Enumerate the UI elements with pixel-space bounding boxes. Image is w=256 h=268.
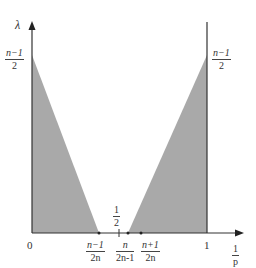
denominator: 2n: [145, 253, 155, 263]
left-shaded-triangle: [32, 55, 99, 233]
x-axis-arrow-icon: [235, 230, 244, 237]
denominator: p: [233, 257, 238, 267]
y-axis-arrow-icon: [29, 21, 36, 30]
x-tick-half-label: 1 2: [113, 205, 120, 228]
denominator: 2: [12, 61, 17, 71]
denominator: 2: [114, 218, 119, 228]
x-tick-a-label: n−1 2n: [86, 240, 105, 263]
x-one-label: 1: [204, 240, 210, 251]
numerator: n−1: [212, 48, 231, 58]
y-axis-label: λ: [15, 19, 20, 31]
denominator: 2: [219, 61, 224, 71]
numerator: 1: [113, 205, 120, 215]
y-tick-left-apex: n−1 2: [5, 48, 24, 71]
numerator: n−1: [5, 48, 24, 58]
denominator: 2n-1: [116, 253, 134, 263]
numerator: n−1: [86, 240, 105, 250]
numerator: 1: [232, 244, 239, 254]
numerator: n+1: [141, 240, 160, 250]
right-shaded-triangle: [128, 55, 207, 233]
denominator: 2n: [90, 253, 100, 263]
numerator: n: [122, 240, 129, 250]
tick-a-point: [98, 232, 101, 235]
diagram-canvas: [0, 0, 256, 268]
x-tick-b-label: n 2n-1: [116, 240, 134, 263]
x-axis-label: 1 p: [232, 244, 239, 267]
y-tick-right-apex: n−1 2: [212, 48, 231, 71]
x-tick-c-label: n+1 2n: [141, 240, 160, 263]
tick-b-point: [127, 232, 130, 235]
tick-c-point: [140, 232, 143, 235]
origin-label: 0: [27, 240, 33, 251]
